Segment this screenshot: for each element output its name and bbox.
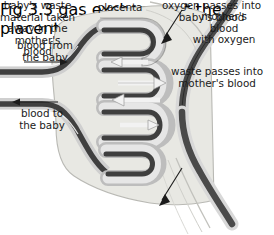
label-blood-to-baby: blood to the baby [6,108,78,131]
placenta-diagram-figure: placenta blood from the baby blood to th… [0,0,274,235]
label-oxygen-passes-into-babys-blood: oxygen passes into baby's blood [162,0,261,23]
label-waste-passes-into-mothers-blood: waste passes into mother's blood [162,66,272,89]
label-placenta: placenta [83,2,157,14]
label-babys-waste-material: baby's waste material taken away in the … [0,0,75,58]
